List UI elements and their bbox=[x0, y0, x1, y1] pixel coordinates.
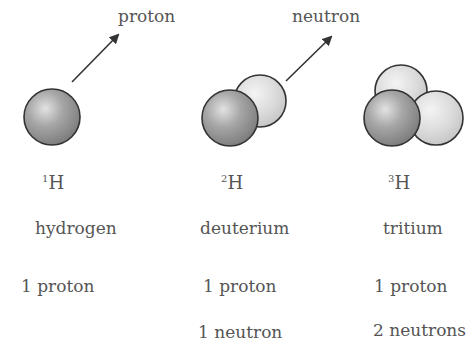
neutron-count-tritium: 2 neutrons bbox=[373, 320, 466, 340]
neutron-label: neutron bbox=[292, 6, 360, 26]
hydrogen-nucleus bbox=[24, 89, 80, 145]
isotope-name-deuterium: deuterium bbox=[200, 218, 289, 238]
neutron-arrow bbox=[286, 37, 331, 81]
proton-arrow bbox=[72, 35, 118, 82]
proton-sphere bbox=[364, 90, 420, 146]
tritium-nucleus bbox=[364, 65, 463, 146]
proton-sphere bbox=[202, 90, 258, 146]
proton-sphere bbox=[24, 89, 80, 145]
deuterium-nucleus bbox=[202, 75, 286, 146]
isotope-symbol-deuterium: 2H bbox=[221, 172, 243, 193]
proton-count-tritium: 1 proton bbox=[374, 276, 447, 296]
isotope-name-tritium: tritium bbox=[383, 218, 443, 238]
isotope-symbol-hydrogen: 1H bbox=[42, 172, 64, 193]
proton-count-deuterium: 1 proton bbox=[203, 276, 276, 296]
neutron-count-deuterium: 1 neutron bbox=[198, 322, 282, 342]
proton-label: proton bbox=[118, 6, 175, 26]
proton-count-hydrogen: 1 proton bbox=[21, 276, 94, 296]
isotope-symbol-tritium: 3H bbox=[388, 172, 410, 193]
isotope-name-hydrogen: hydrogen bbox=[35, 218, 117, 238]
